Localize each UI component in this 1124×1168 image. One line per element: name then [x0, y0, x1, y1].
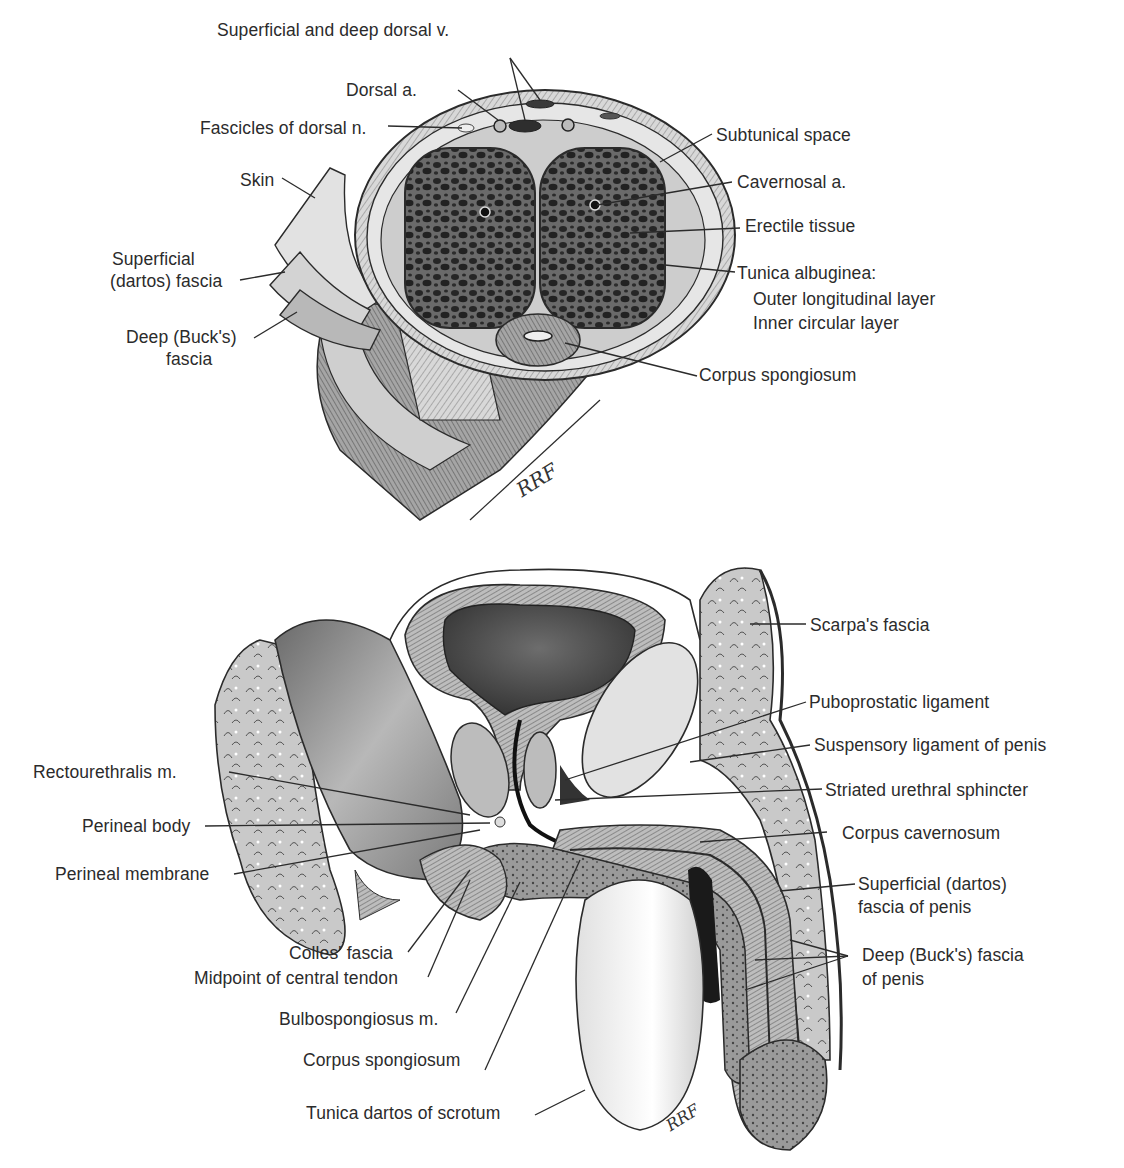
label-puboprostatic-ligament: Puboprostatic ligament [809, 691, 989, 713]
label-erectile-tissue: Erectile tissue [745, 215, 855, 237]
sagittal-section-figure: Scarpa's fascia Puboprostatic ligament S… [0, 540, 1124, 1168]
label-superficial-dartos-penis-line1: Superficial (dartos) [858, 873, 1007, 895]
label-colles-fascia: Colles' fascia [289, 942, 393, 964]
label-perineal-membrane: Perineal membrane [55, 863, 209, 885]
label-rectourethralis: Rectourethralis m. [33, 761, 177, 783]
label-suspensory-ligament: Suspensory ligament of penis [814, 734, 1046, 756]
label-superficial-deep-dorsal-vein: Superficial and deep dorsal v. [217, 19, 449, 41]
label-deep-bucks-penis-line2: of penis [862, 968, 924, 990]
cross-section-figure: Superficial and deep dorsal v. Dorsal a.… [0, 0, 1124, 540]
label-deep-bucks-fascia-line2: fascia [166, 348, 212, 370]
label-corpus-spongiosum-bottom: Corpus spongiosum [303, 1049, 460, 1071]
label-tunica-albuginea: Tunica albuginea: [737, 262, 876, 284]
label-perineal-body: Perineal body [82, 815, 190, 837]
label-bulbospongiosus: Bulbospongiosus m. [279, 1008, 438, 1030]
label-tunica-dartos-scrotum: Tunica dartos of scrotum [306, 1102, 500, 1124]
label-deep-bucks-penis-line1: Deep (Buck's) fascia [862, 944, 1024, 966]
label-inner-circular-layer: Inner circular layer [753, 312, 899, 334]
label-subtunical-space: Subtunical space [716, 124, 851, 146]
label-corpus-cavernosum: Corpus cavernosum [842, 822, 1000, 844]
label-cavernosal-artery: Cavernosal a. [737, 171, 846, 193]
label-outer-longitudinal-layer: Outer longitudinal layer [753, 288, 935, 310]
label-scarpas-fascia: Scarpa's fascia [810, 614, 930, 636]
label-striated-urethral-sphincter: Striated urethral sphincter [825, 779, 1028, 801]
label-corpus-spongiosum-top: Corpus spongiosum [699, 364, 856, 386]
label-superficial-fascia-line1: Superficial [112, 248, 195, 270]
label-superficial-fascia-line2: (dartos) fascia [110, 270, 222, 292]
label-deep-bucks-fascia-line1: Deep (Buck's) [126, 326, 237, 348]
label-superficial-dartos-penis-line2: fascia of penis [858, 896, 971, 918]
label-fascicles-dorsal-nerve: Fascicles of dorsal n. [200, 117, 367, 139]
sagittal-section-illustration [0, 540, 1124, 1168]
label-dorsal-artery: Dorsal a. [346, 79, 417, 101]
label-skin: Skin [240, 169, 274, 191]
label-central-tendon: Midpoint of central tendon [194, 967, 398, 989]
